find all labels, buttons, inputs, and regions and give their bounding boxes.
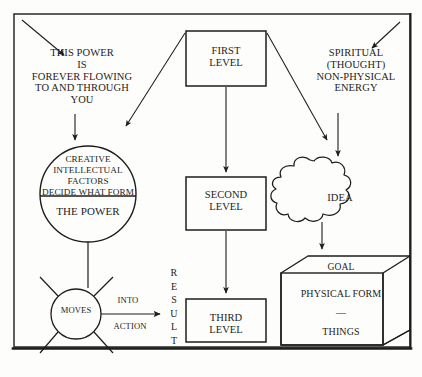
first-level-label: FIRST LEVEL [191, 45, 261, 69]
power-heading-text: THIS POWER IS FOREVER FLOWING TO AND THR… [8, 47, 156, 106]
separator-dash: — [281, 307, 401, 318]
second-level-label: SECOND LEVEL [191, 189, 261, 213]
action-label: ACTION [103, 322, 157, 332]
top-right-inflow-arrow [372, 22, 400, 48]
third-level-label: THIRD LEVEL [191, 312, 261, 336]
physical-form-label: PHYSICAL FORM [281, 288, 401, 299]
idea-cloud [271, 157, 351, 221]
moves-label: MOVES [42, 306, 110, 316]
goal-label: GOAL [303, 262, 379, 273]
into-label: INTO [103, 296, 153, 306]
result-vertical-label: R E S U L T [166, 266, 182, 347]
spiritual-heading-text: SPIRITUAL (THOUGHT) NON-PHYSICAL ENERGY [296, 47, 416, 94]
things-label: THINGS [281, 326, 401, 337]
the-power-label: THE POWER [26, 205, 150, 217]
creative-factors-label: CREATIVE INTELLECTUAL FACTORS DECIDE WHA… [26, 154, 150, 197]
idea-label: IDEA [312, 192, 368, 204]
diagram-canvas: THIS POWER IS FOREVER FLOWING TO AND THR… [0, 0, 422, 377]
